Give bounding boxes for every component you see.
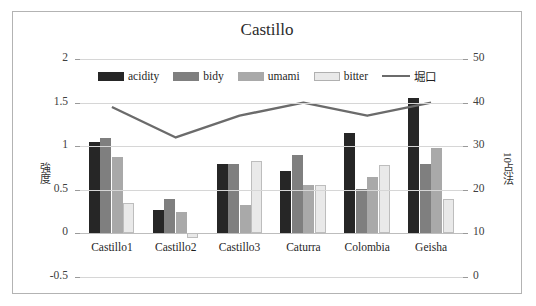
bar-acidity-Castillo1 [89,142,100,234]
bar-bitter-Caturra [315,185,326,233]
bar-bidy-Caturra [292,155,303,233]
y-tick-mark-right [463,277,468,278]
bar-bidy-Colombia [356,189,367,233]
y-tick-label-left: -0.5 [8,269,68,281]
gridline [80,233,463,234]
y-tick-mark-right [463,190,468,191]
gridline [80,146,463,147]
bar-bitter-Colombia [379,165,390,233]
bar-bidy-Castillo2 [164,199,175,234]
gridline [80,59,463,60]
gridline [80,190,463,191]
y-tick-mark-right [463,59,468,60]
y-tick-mark-right [463,103,468,104]
x-axis-label-Castillo2: Castillo2 [144,241,208,253]
y-axis-label-left: 強度 [37,162,53,184]
y-tick-mark-left [75,59,80,60]
y-tick-label-right: 0 [473,269,533,281]
y-tick-mark-left [75,277,80,278]
chart-title: Castillo [13,20,521,40]
y-tick-label-left: 1 [8,138,68,150]
plot-area: 2501.5401300.520010-0.50Castillo1Castill… [80,59,463,277]
bar-acidity-Colombia [344,133,355,233]
y-tick-label-left: 1.5 [8,95,68,107]
x-axis-label-Colombia: Colombia [335,241,399,253]
y-tick-mark-right [463,146,468,147]
bar-bidy-Castillo1 [100,138,111,234]
bar-acidity-Caturra [280,171,291,234]
x-axis-label-Caturra: Caturra [272,241,336,253]
bar-umami-Castillo1 [112,157,123,234]
bar-umami-Colombia [367,177,378,234]
bar-bitter-Castillo3 [251,161,262,233]
y-tick-mark-left [75,146,80,147]
y-tick-label-left: 0 [8,225,68,237]
x-axis-label-Castillo3: Castillo3 [208,241,272,253]
bar-umami-Caturra [303,185,314,233]
gridline [80,103,463,104]
gridline [80,277,463,278]
y-tick-mark-left [75,190,80,191]
chart-screenshot: Castillo aciditybidyumamibitter堀口 強度 10点… [0,0,536,306]
bar-acidity-Castillo2 [153,210,164,234]
y-tick-label-right: 20 [473,182,533,194]
y-axis-label-right: 10点法 [500,152,516,185]
x-axis-label-Castillo1: Castillo1 [80,241,144,253]
y-tick-mark-left [75,103,80,104]
bar-umami-Castillo2 [176,212,187,233]
bar-acidity-Geisha [408,98,419,233]
x-axis-label-Geisha: Geisha [399,241,463,253]
bar-bitter-Geisha [443,199,454,233]
y-tick-mark-left [75,233,80,234]
y-tick-label-left: 2 [8,51,68,63]
chart-frame: Castillo aciditybidyumamibitter堀口 強度 10点… [12,11,522,294]
y-tick-label-right: 10 [473,225,533,237]
bar-acidity-Castillo3 [217,164,228,234]
bar-bidy-Castillo3 [228,164,239,234]
bar-umami-Castillo3 [240,205,251,234]
y-tick-label-right: 30 [473,138,533,150]
bar-bidy-Geisha [420,164,431,234]
y-tick-label-right: 50 [473,51,533,63]
bar-bitter-Castillo1 [123,203,134,234]
y-tick-label-right: 40 [473,95,533,107]
y-tick-label-left: 0.5 [8,182,68,194]
y-tick-mark-right [463,233,468,234]
cropped-header-text [0,0,536,9]
